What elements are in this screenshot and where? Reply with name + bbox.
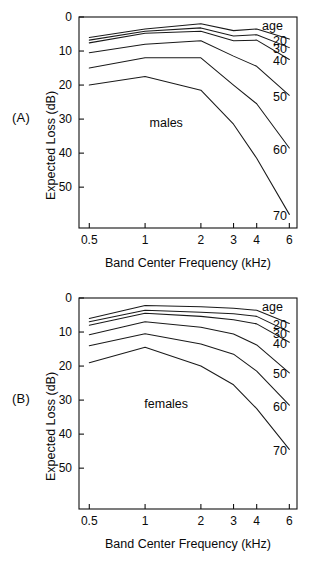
y-tick-label: 0 — [65, 291, 72, 305]
series-line-70 — [89, 347, 289, 449]
y-tick-label: 40 — [59, 427, 73, 441]
series-line-60 — [89, 334, 289, 405]
x-tick-label: 4 — [253, 233, 260, 247]
x-tick-label: 1 — [142, 514, 149, 528]
legend-header: age — [262, 19, 283, 33]
series-label-70: 70 — [273, 209, 287, 223]
series-label-70: 70 — [273, 444, 287, 458]
x-tick-label: 0.5 — [81, 514, 98, 528]
panel-a: (A) Expected Loss (dB) Band Center Frequ… — [0, 0, 310, 280]
y-tick-label: 0 — [65, 10, 72, 24]
series-line-30 — [89, 310, 289, 332]
y-tick-label: 30 — [59, 393, 73, 407]
x-tick-label: 4 — [253, 514, 260, 528]
plot-frame — [79, 17, 297, 228]
legend-header: age — [262, 300, 283, 314]
panel-b: (B) Expected Loss (dB) Band Center Frequ… — [0, 281, 310, 561]
x-tick-label: 6 — [286, 233, 293, 247]
series-line-60 — [89, 58, 289, 148]
group-label: males — [150, 116, 183, 130]
series-label-50: 50 — [273, 367, 287, 381]
panel-a-plot: 010203040500.512346age203040506070males — [0, 0, 310, 280]
x-tick-label: 6 — [286, 514, 293, 528]
y-tick-label: 10 — [59, 44, 73, 58]
series-label-40: 40 — [273, 337, 287, 351]
panel-b-plot: 010203040500.512346age203040506070female… — [0, 281, 310, 561]
x-tick-label: 1 — [142, 233, 149, 247]
y-tick-label: 10 — [59, 325, 73, 339]
figure-container: (A) Expected Loss (dB) Band Center Frequ… — [0, 0, 310, 561]
x-tick-label: 2 — [198, 233, 205, 247]
y-tick-label: 50 — [59, 180, 73, 194]
series-line-50 — [89, 322, 289, 373]
x-tick-label: 2 — [198, 514, 205, 528]
y-tick-label: 30 — [59, 112, 73, 126]
x-tick-label: 0.5 — [81, 233, 98, 247]
x-tick-label: 3 — [230, 514, 237, 528]
y-tick-label: 20 — [59, 78, 73, 92]
x-tick-label: 3 — [230, 233, 237, 247]
y-tick-label: 20 — [59, 359, 73, 373]
series-label-60: 60 — [273, 400, 287, 414]
series-line-70 — [89, 77, 289, 215]
group-label: females — [144, 397, 188, 411]
y-tick-label: 50 — [59, 461, 73, 475]
series-label-50: 50 — [273, 90, 287, 104]
series-label-40: 40 — [273, 54, 287, 68]
series-label-60: 60 — [273, 143, 287, 157]
y-tick-label: 40 — [59, 146, 73, 160]
series-line-20 — [89, 305, 289, 323]
